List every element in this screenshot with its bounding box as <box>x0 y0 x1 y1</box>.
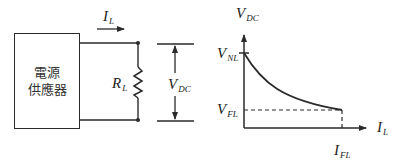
x-axis-label: IL <box>377 120 388 137</box>
current-label: IL <box>103 9 114 26</box>
power-supply-label-line1: 電源 <box>34 64 60 81</box>
dashed-guides <box>244 110 342 128</box>
v-fl-label: VFL <box>217 102 238 119</box>
regulation-curve <box>244 53 342 110</box>
resistor-icon <box>134 67 142 98</box>
y-axis-label: VDC <box>236 6 259 23</box>
resistor-label: RL <box>112 76 127 93</box>
circuit-wires <box>80 43 138 120</box>
graph-axes <box>239 35 366 128</box>
voltage-label: VDC <box>168 76 191 95</box>
junction-dot-top <box>136 41 140 45</box>
power-supply-box: 電源 供應器 <box>14 33 80 129</box>
v-nl-label: VNL <box>217 46 238 63</box>
junction-dot-bottom <box>136 118 140 122</box>
i-fl-label: IFL <box>334 143 351 160</box>
power-supply-label-line2: 供應器 <box>28 81 67 98</box>
